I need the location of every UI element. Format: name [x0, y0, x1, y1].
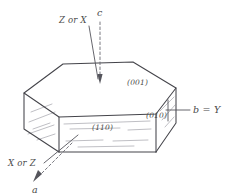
- figure-canvas: Z or X c (001) (110) (010) b = Y X or Z …: [0, 0, 226, 196]
- crystal-diagram: Z or X c (001) (110) (010) b = Y X or Z …: [0, 0, 226, 196]
- axis-label-c: c: [97, 7, 103, 18]
- face-label-110: (110): [92, 123, 113, 132]
- face-label-001: (001): [127, 78, 148, 87]
- axis-label-a: a: [32, 184, 38, 195]
- optic-label-x-or-z: X or Z: [7, 158, 37, 168]
- axis-a-arrowhead: [33, 170, 42, 182]
- axis-label-b: b = Y: [193, 104, 222, 115]
- face-label-010: (010): [146, 111, 167, 120]
- optic-label-z-or-x: Z or X: [58, 15, 87, 25]
